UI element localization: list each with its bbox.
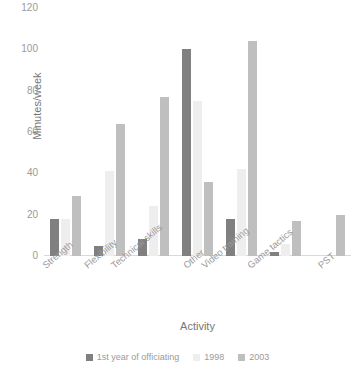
legend-swatch-icon xyxy=(193,354,200,361)
x-tick-cell: Flexibility xyxy=(88,258,132,314)
legend-label: 2003 xyxy=(249,352,269,362)
x-tick-cell: Game tactics xyxy=(263,258,307,314)
legend-item[interactable]: 1998 xyxy=(193,352,224,362)
legend-item[interactable]: 2003 xyxy=(238,352,269,362)
bar[interactable] xyxy=(204,182,213,256)
chart-legend: 1st year of officiating19982003 xyxy=(0,352,355,362)
bar[interactable] xyxy=(116,124,125,256)
y-tick-label: 100 xyxy=(4,44,38,54)
y-tick-label: 40 xyxy=(4,168,38,178)
bar[interactable] xyxy=(182,49,191,256)
bar-group xyxy=(88,8,132,256)
bar[interactable] xyxy=(292,221,301,256)
bar[interactable] xyxy=(281,244,290,256)
bar-group xyxy=(132,8,176,256)
bar[interactable] xyxy=(193,101,202,256)
bar[interactable] xyxy=(248,41,257,256)
y-tick-label: 60 xyxy=(4,127,38,137)
bar-group xyxy=(263,8,307,256)
y-axis-title: Minutes/week xyxy=(31,36,43,176)
bar-group xyxy=(44,8,88,256)
y-tick-label: 20 xyxy=(4,210,38,220)
bar-group xyxy=(307,8,351,256)
legend-label: 1st year of officiating xyxy=(97,352,179,362)
plot-area: 020406080100120 xyxy=(44,8,351,256)
bar-group xyxy=(176,8,220,256)
x-axis-title: Activity xyxy=(44,320,351,332)
y-tick-label: 0 xyxy=(4,251,38,261)
x-tick-cell: PST xyxy=(307,258,351,314)
bar-group xyxy=(219,8,263,256)
bar-series-container xyxy=(44,8,351,256)
x-axis-ticks: StrengthFlexibilityTechnical skillsOther… xyxy=(44,258,351,314)
bar[interactable] xyxy=(160,97,169,256)
bar[interactable] xyxy=(336,215,345,256)
legend-swatch-icon xyxy=(238,354,245,361)
x-tick-cell: Strength xyxy=(44,258,88,314)
y-tick-label: 80 xyxy=(4,86,38,96)
y-tick-label: 120 xyxy=(4,3,38,13)
legend-label: 1998 xyxy=(204,352,224,362)
x-tick-cell: Technical skills xyxy=(132,258,176,314)
bar-chart: Minutes/week 020406080100120 StrengthFle… xyxy=(0,0,355,373)
legend-item[interactable]: 1st year of officiating xyxy=(86,352,179,362)
x-tick-cell: Other xyxy=(176,258,220,314)
legend-swatch-icon xyxy=(86,354,93,361)
